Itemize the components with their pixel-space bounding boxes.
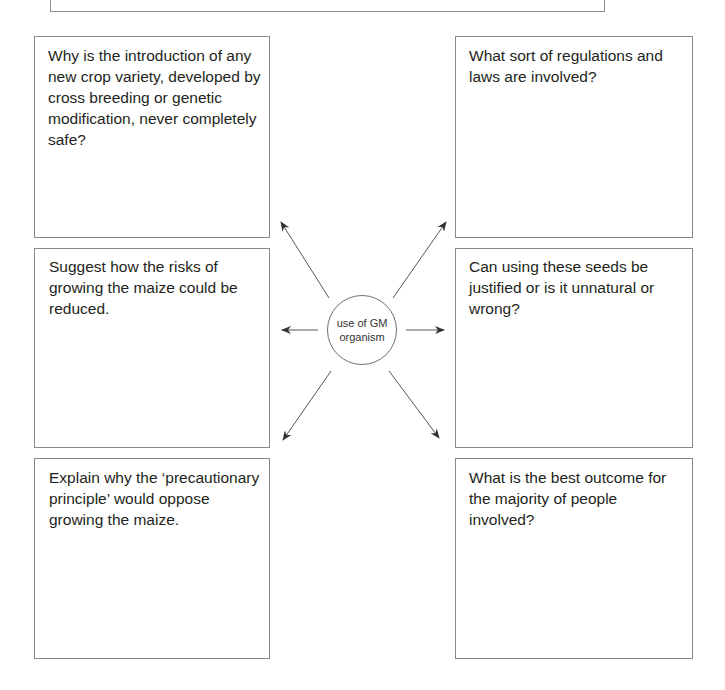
arrow-up-right-icon	[393, 222, 446, 298]
arrow-down-right-icon	[389, 371, 439, 438]
central-topic-label: use of GM organism	[332, 316, 392, 344]
central-topic-circle: use of GM organism	[327, 295, 397, 365]
arrow-down-left-icon	[283, 371, 331, 440]
arrow-up-left-icon	[281, 222, 329, 298]
